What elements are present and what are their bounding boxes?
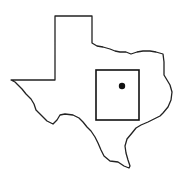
texas-map-svg [0, 0, 182, 183]
texas-outline [11, 16, 172, 168]
locator-map [0, 0, 182, 183]
location-marker-icon [119, 83, 125, 89]
locator-box [96, 70, 139, 120]
